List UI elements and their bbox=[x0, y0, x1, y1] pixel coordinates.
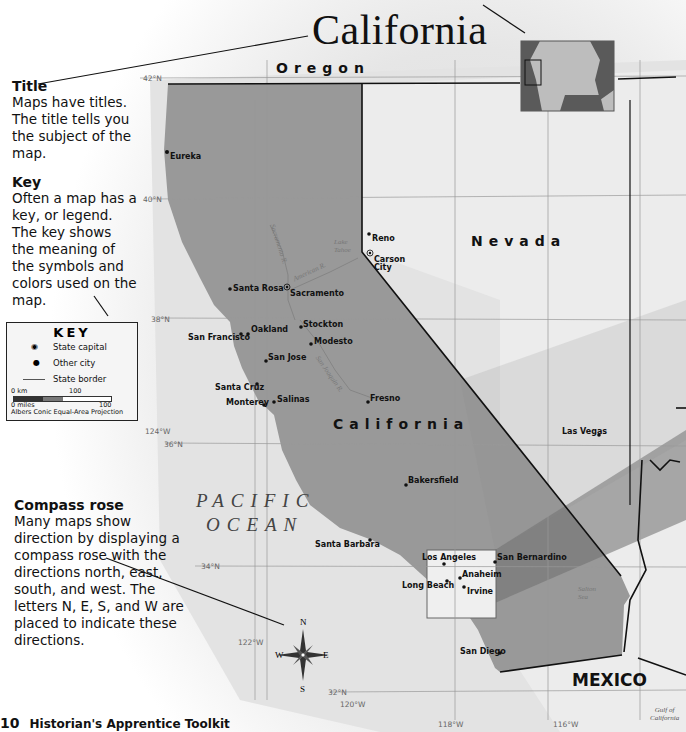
book-title: Historian's Apprentice Toolkit bbox=[29, 717, 229, 731]
label-oregon: Oregon bbox=[276, 60, 370, 76]
city-irvine: Irvine bbox=[467, 587, 493, 596]
compass-w-label: W bbox=[275, 650, 284, 660]
gulf-line-2: California bbox=[650, 714, 679, 722]
label-salton-sea: Salton Sea bbox=[578, 585, 602, 601]
page-footer: 10Historian's Apprentice Toolkit bbox=[0, 715, 230, 731]
city-sacramento: Sacramento bbox=[290, 289, 344, 298]
key-label-state-border: State border bbox=[53, 374, 106, 384]
grid-lat-38: 38°N bbox=[151, 315, 170, 324]
compass-e-label: E bbox=[323, 650, 329, 660]
city-san-bernardino: San Bernardino bbox=[497, 553, 567, 562]
city-bakersfield: Bakersfield bbox=[408, 476, 459, 485]
city-santa-barbara: Santa Barbara bbox=[315, 540, 380, 549]
label-lake-tahoe: Lake Tahoe bbox=[334, 238, 358, 254]
callout-title-body: Maps have titles. The title tells you th… bbox=[12, 94, 142, 162]
scale-km-start: 0 km bbox=[11, 387, 27, 395]
city-dot-icon: ● bbox=[33, 358, 40, 367]
key-label-state-capital: State capital bbox=[53, 342, 107, 352]
city-san-francisco: San Francisco bbox=[188, 333, 250, 342]
grid-lon-122: 122°W bbox=[238, 638, 263, 647]
grid-lat-34: 34°N bbox=[201, 562, 220, 571]
city-modesto: Modesto bbox=[314, 337, 353, 346]
page-number: 10 bbox=[0, 715, 19, 731]
grid-lat-40: 40°N bbox=[143, 195, 162, 204]
city-long-beach: Long Beach bbox=[402, 581, 454, 590]
callout-compass-heading: Compass rose bbox=[14, 497, 184, 513]
state-border-line-icon bbox=[23, 379, 45, 380]
label-gulf-of-california: Gulf of California bbox=[650, 706, 679, 722]
grid-lon-118: 118°W bbox=[438, 720, 463, 729]
scale-km-end: 100 bbox=[69, 387, 81, 395]
city-oakland: Oakland bbox=[251, 325, 288, 334]
label-ocean: OCEAN bbox=[206, 514, 303, 536]
city-eureka: Eureka bbox=[170, 152, 201, 161]
grid-lon-116: 116°W bbox=[553, 720, 578, 729]
callout-key: Key Often a map has a key, or legend. Th… bbox=[12, 174, 137, 309]
label-pacific: PACIFIC bbox=[196, 490, 315, 512]
grid-lon-124: 124°W bbox=[145, 427, 170, 436]
state-capital-icon: ◉ bbox=[31, 342, 38, 351]
label-california: California bbox=[333, 416, 469, 432]
city-stockton: Stockton bbox=[303, 320, 343, 329]
city-monterey: Monterey bbox=[226, 398, 269, 407]
compass-n-label: N bbox=[300, 617, 307, 627]
city-santa-cruz: Santa Cruz bbox=[215, 383, 264, 392]
label-mexico: MEXICO bbox=[572, 670, 647, 690]
locator-inset bbox=[521, 41, 614, 111]
city-fresno: Fresno bbox=[370, 394, 400, 403]
carson-city-line-2: City bbox=[374, 264, 405, 272]
city-santa-rosa: Santa Rosa bbox=[233, 284, 284, 293]
callout-title: Title Maps have titles. The title tells … bbox=[12, 78, 142, 162]
label-nevada: Nevada bbox=[471, 233, 566, 249]
city-los-angeles: Los Angeles bbox=[422, 553, 476, 562]
callout-key-body: Often a map has a key, or legend. The ke… bbox=[12, 190, 137, 309]
callout-title-heading: Title bbox=[12, 78, 142, 94]
gulf-line-1: Gulf of bbox=[650, 706, 679, 714]
grid-lat-36: 36°N bbox=[164, 440, 183, 449]
city-san-diego: San Diego bbox=[460, 647, 506, 656]
city-salinas: Salinas bbox=[277, 395, 310, 404]
grid-lat-32: 32°N bbox=[328, 688, 347, 697]
grid-lat-42: 42°N bbox=[143, 74, 162, 83]
city-carson-city: Carson City bbox=[374, 256, 405, 272]
callout-compass-body: Many maps show direction by displaying a… bbox=[14, 513, 184, 649]
map-title: California bbox=[312, 6, 487, 54]
city-san-jose: San Jose bbox=[268, 353, 306, 362]
key-label-other-city: Other city bbox=[53, 358, 95, 368]
compass-s-label: S bbox=[300, 684, 305, 694]
city-las-vegas: Las Vegas bbox=[562, 427, 607, 436]
grid-lon-120: 120°W bbox=[340, 700, 365, 709]
callout-key-heading: Key bbox=[12, 174, 137, 190]
key-title: KEY bbox=[7, 325, 137, 340]
callout-compass: Compass rose Many maps show direction by… bbox=[14, 497, 184, 649]
city-anaheim: Anaheim bbox=[462, 570, 501, 579]
map-key: KEY ◉ State capital ● Other city State b… bbox=[6, 322, 138, 421]
city-reno: Reno bbox=[372, 234, 395, 243]
projection-label: Albers Conic Equal-Area Projection bbox=[11, 408, 123, 416]
